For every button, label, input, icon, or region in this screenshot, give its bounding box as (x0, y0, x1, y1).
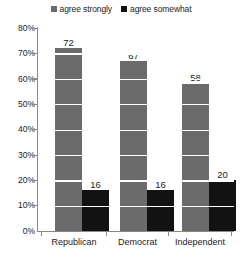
y-tick-mark-40 (32, 129, 37, 130)
bar-independent-agree-strongly[interactable]: 58 (182, 84, 209, 231)
plot-area: 72 16 67 16 58 (38, 28, 234, 231)
bar-value-independent-agree-strongly: 58 (190, 73, 201, 83)
y-tick-mark-60 (32, 78, 37, 79)
bar-value-democrat-agree-somewhat: 16 (155, 180, 166, 190)
bar-value-republican-agree-strongly: 72 (63, 38, 74, 48)
x-axis-line (37, 231, 234, 232)
x-axis-label-democrat: Democrat (107, 238, 168, 247)
x-axis-label-independent: Independent (169, 238, 231, 247)
legend-swatch-icon-agree-strongly (51, 6, 57, 12)
x-axis-label-republican: Republican (42, 238, 106, 247)
x-tick-sep-right (231, 231, 232, 236)
y-tick-mark-80 (32, 28, 37, 29)
bar-value-democrat-agree-strongly: 67 (128, 51, 139, 61)
bar-independent-agree-somewhat[interactable]: 20 (209, 180, 236, 231)
bar-value-republican-agree-somewhat: 16 (90, 180, 101, 190)
legend-label-agree-strongly: agree strongly (60, 5, 112, 14)
x-tick-sep-2 (168, 231, 169, 236)
bar-democrat-agree-somewhat[interactable]: 16 (147, 190, 174, 231)
x-tick-sep-left (41, 231, 42, 236)
bar-republican-agree-strongly[interactable]: 72 (55, 48, 82, 231)
y-tick-mark-30 (32, 155, 37, 156)
y-tick-mark-70 (32, 53, 37, 54)
chart-legend: agree strongly agree somewhat (0, 5, 242, 14)
bar-republican-agree-somewhat[interactable]: 16 (82, 190, 109, 231)
legend-swatch-icon-agree-somewhat (121, 6, 127, 12)
x-tick-sep-1 (106, 231, 107, 236)
bar-value-independent-agree-somewhat: 20 (217, 170, 228, 180)
y-tick-mark-20 (32, 180, 37, 181)
y-tick-mark-50 (32, 104, 37, 105)
y-tick-label-0: 0% (23, 227, 38, 236)
legend-label-agree-somewhat: agree somewhat (130, 5, 191, 14)
y-tick-mark-10 (32, 205, 37, 206)
legend-item-agree-strongly: agree strongly (51, 5, 112, 14)
legend-item-agree-somewhat: agree somewhat (121, 5, 191, 14)
bar-chart: agree strongly agree somewhat 80% 70% 60… (0, 0, 242, 266)
bar-democrat-agree-strongly[interactable]: 67 (120, 61, 147, 231)
